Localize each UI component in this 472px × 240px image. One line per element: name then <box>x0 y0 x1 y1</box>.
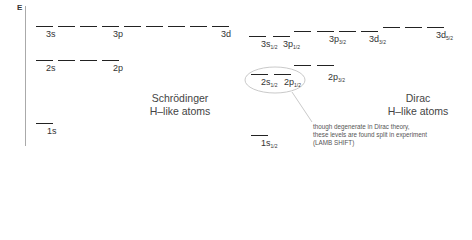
dirac-1s-level <box>251 135 268 136</box>
lamb-shift-note: though degenerate in Dirac theory, these… <box>313 123 427 147</box>
label-1s-1-2: 1s1/2 <box>261 138 277 151</box>
dirac-title: Dirac H–like atoms <box>373 92 463 118</box>
